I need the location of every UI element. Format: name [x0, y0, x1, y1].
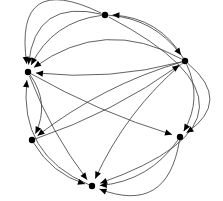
graph-edge: [31, 15, 102, 65]
graph-edge: [99, 140, 179, 195]
graph-node[interactable]: [182, 58, 188, 64]
graph-node[interactable]: [29, 137, 35, 143]
graph-edge: [34, 40, 182, 68]
graph-edge: [100, 17, 199, 183]
graph-edge: [30, 75, 42, 134]
graph-node[interactable]: [25, 69, 31, 75]
graph-edge: [184, 64, 194, 131]
edge-layer: [25, 0, 210, 196]
graph-edge: [28, 11, 102, 64]
graph-arrowhead: [80, 172, 89, 181]
graph-canvas: [0, 0, 223, 201]
graph-arrowhead: [36, 70, 44, 77]
graph-node[interactable]: [102, 12, 108, 18]
graph-arrowhead: [112, 12, 119, 19]
graph-edge: [95, 63, 182, 179]
graph-edge: [35, 65, 179, 139]
graph-node[interactable]: [89, 183, 95, 189]
graph-edge: [112, 15, 183, 58]
graph-edge: [186, 63, 209, 132]
graph-edge: [25, 0, 101, 64]
graph-arrowhead: [92, 171, 101, 180]
graph-node[interactable]: [177, 134, 183, 140]
graph-arrowhead: [164, 130, 173, 138]
graph-edge: [108, 15, 181, 55]
graph-arrowhead: [23, 80, 30, 88]
graph-edge: [38, 62, 182, 136]
directed-graph-figure: [0, 0, 223, 201]
